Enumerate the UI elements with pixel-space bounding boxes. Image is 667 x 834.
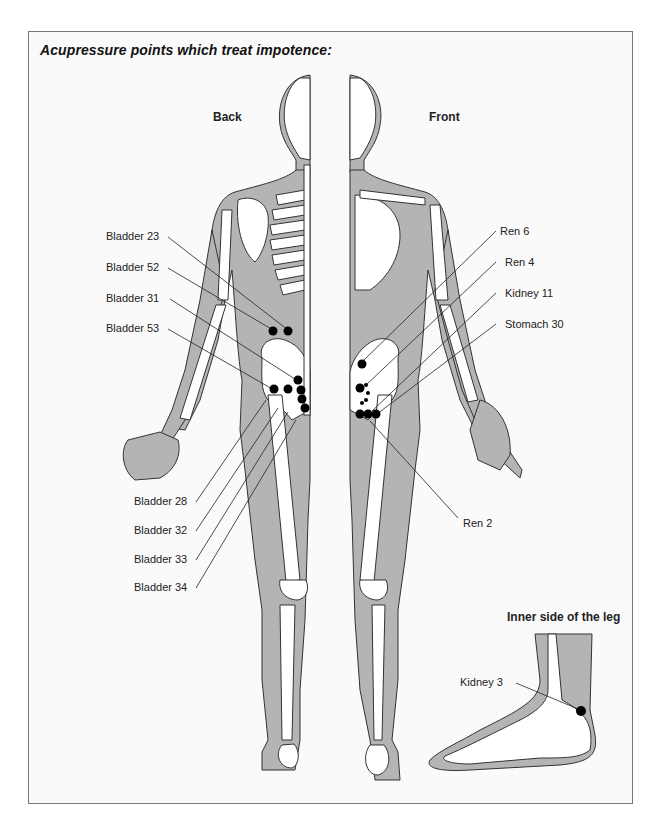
label-bladder-23: Bladder 23	[106, 230, 159, 242]
point-bladder-33	[298, 395, 307, 404]
label-bladder-34: Bladder 34	[134, 581, 187, 593]
label-kidney-11: Kidney 11	[505, 287, 553, 299]
label-ren-6: Ren 6	[500, 225, 529, 237]
point-bladder-34	[301, 404, 310, 413]
label-bladder-32: Bladder 32	[134, 524, 187, 536]
point-stomach-30	[372, 410, 381, 419]
body-illustration	[0, 0, 667, 834]
point-bladder-52	[269, 327, 278, 336]
point-bladder-53	[270, 385, 279, 394]
label-kidney-3: Kidney 3	[460, 676, 503, 688]
label-bladder-53: Bladder 53	[106, 322, 159, 334]
point-kidney-11	[360, 401, 364, 405]
label-bladder-28: Bladder 28	[134, 495, 187, 507]
point-bladder-23	[284, 327, 293, 336]
label-ren-2: Ren 2	[463, 517, 492, 529]
point-bladder-28	[284, 385, 293, 394]
label-ren-4: Ren 4	[505, 256, 534, 268]
point-ren-4	[356, 384, 365, 393]
label-bladder-33: Bladder 33	[134, 553, 187, 565]
label-bladder-52: Bladder 52	[106, 261, 159, 273]
label-stomach-30: Stomach 30	[505, 318, 564, 330]
point-ren-6	[358, 360, 367, 369]
point-kidney-11b	[364, 410, 373, 419]
point-kidney-3	[576, 706, 586, 716]
point-ren-2	[356, 410, 365, 419]
point-bladder-32	[297, 386, 306, 395]
point-bladder-31	[294, 376, 303, 385]
label-bladder-31: Bladder 31	[106, 292, 159, 304]
